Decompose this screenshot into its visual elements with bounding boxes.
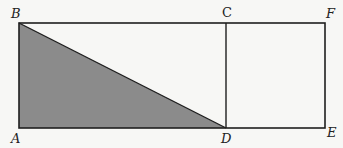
label-f: F [325,6,336,21]
label-d: D [220,131,232,146]
geometry-diagram: B C F A D E [0,0,343,148]
label-b: B [10,6,21,21]
label-c: C [222,5,232,20]
label-a: A [10,131,20,146]
label-e: E [326,125,337,140]
